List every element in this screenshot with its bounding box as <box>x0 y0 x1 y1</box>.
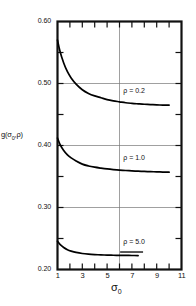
x-tick-label-9: 9 <box>151 271 163 280</box>
x-axis-title-subscript: 0 <box>118 288 122 295</box>
curve-label-rho-1-0: ρ = 1.0 <box>123 154 145 161</box>
x-axis-title-sigma: σ <box>111 281 118 293</box>
chart-plot-area <box>0 0 196 306</box>
x-axis-title: σ0 <box>111 281 122 295</box>
y-tick-label-040: 0.40 <box>29 141 51 148</box>
x-tick-label-7: 7 <box>126 271 138 280</box>
curve-label-rho-5-0: ρ = 5.0 <box>123 238 145 245</box>
y-axis-title-tail: ,ρ) <box>15 130 23 139</box>
x-tick-label-11: 11 <box>176 271 188 280</box>
y-axis-title: g(σ0,ρ) <box>1 130 23 141</box>
gridlines <box>58 22 182 270</box>
curve-label-rho-0-2: ρ = 0.2 <box>123 87 145 94</box>
chart-figure: g(σ0,ρ) 0.60 0.50 0.40 0.30 0.20 1 3 5 7… <box>0 0 196 306</box>
curve-series-1 <box>58 138 170 172</box>
y-tick-label-030: 0.30 <box>29 203 51 210</box>
x-tick-label-3: 3 <box>77 271 89 280</box>
y-tick-label-060: 0.60 <box>29 17 51 24</box>
y-tick-label-050: 0.50 <box>29 79 51 86</box>
x-tick-label-5: 5 <box>102 271 114 280</box>
data-curves <box>58 40 170 255</box>
x-tick-label-1: 1 <box>52 271 64 280</box>
y-tick-label-020: 0.20 <box>29 265 51 272</box>
curve-series-0 <box>58 40 170 105</box>
